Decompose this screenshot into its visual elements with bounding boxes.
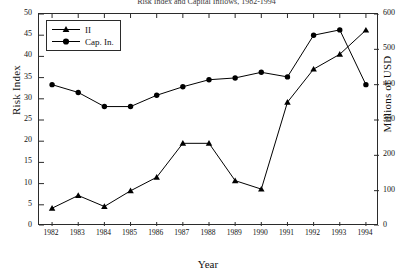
y-tick-left-20: 20 <box>10 136 32 144</box>
x-axis-label: Year <box>38 258 378 270</box>
y-tick-left-15: 15 <box>10 157 32 165</box>
y-tick-right-0: 0 <box>383 221 407 229</box>
chart-figure: Risk Index and Capital Inflows, 1982-199… <box>0 0 413 278</box>
y-tick-right-100: 100 <box>383 186 407 194</box>
y-tick-left-40: 40 <box>10 51 32 59</box>
chart-title: Risk Index and Capital Inflows, 1982-199… <box>0 0 413 6</box>
x-tick-1994: 1994 <box>350 229 380 237</box>
y-tick-right-200: 200 <box>383 150 407 158</box>
legend-label-cap-in: Cap. In. <box>85 37 114 47</box>
y-tick-left-0: 0 <box>10 221 32 229</box>
y-tick-right-300: 300 <box>383 115 407 123</box>
legend-item-cap-in: Cap. In. <box>51 36 114 47</box>
y-tick-left-30: 30 <box>10 94 32 102</box>
y-tick-left-35: 35 <box>10 73 32 81</box>
circle-marker-icon <box>51 36 81 47</box>
triangle-marker-icon <box>51 24 81 35</box>
legend-label-ii: II <box>85 25 91 35</box>
y-tick-left-5: 5 <box>10 200 32 208</box>
y-tick-left-10: 10 <box>10 179 32 187</box>
legend-item-ii: II <box>51 24 114 35</box>
y-tick-right-600: 600 <box>383 9 407 17</box>
y-tick-right-400: 400 <box>383 80 407 88</box>
y-tick-left-45: 45 <box>10 30 32 38</box>
y-tick-right-500: 500 <box>383 44 407 52</box>
y-tick-left-25: 25 <box>10 115 32 123</box>
y-tick-left-50: 50 <box>10 9 32 17</box>
chart-legend: II Cap. In. <box>46 20 121 51</box>
